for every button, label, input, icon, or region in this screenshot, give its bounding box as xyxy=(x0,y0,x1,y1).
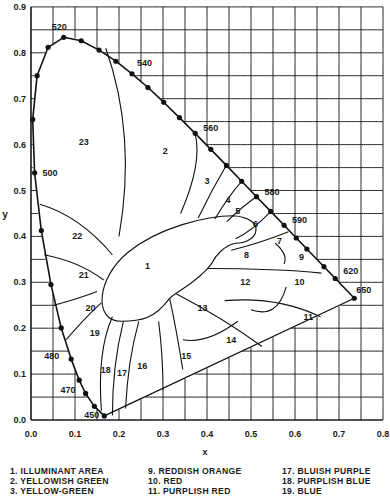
region-label: 5 xyxy=(235,206,240,216)
x-tick-label: 0.7 xyxy=(333,429,346,439)
y-tick-label: 0.7 xyxy=(13,94,26,104)
y-tick-label: 0.1 xyxy=(13,369,26,379)
x-tick-label: 0.8 xyxy=(377,429,390,439)
wavelength-label: 560 xyxy=(203,123,218,133)
region-boundary xyxy=(275,243,285,264)
wavelength-point xyxy=(79,38,84,43)
region-boundary xyxy=(181,134,197,214)
wavelength-point xyxy=(77,378,82,383)
region-label: 20 xyxy=(85,303,95,313)
region-boundary xyxy=(198,165,226,218)
region-label: 4 xyxy=(226,195,231,205)
wavelength-point xyxy=(30,117,35,122)
y-tick-label: 0.2 xyxy=(13,323,26,333)
wavelength-point xyxy=(145,85,150,90)
region-label: 12 xyxy=(240,277,250,287)
wavelength-point xyxy=(254,194,259,199)
x-tick-label: 0.0 xyxy=(25,429,38,439)
wavelength-point xyxy=(281,223,286,228)
wavelength-point xyxy=(39,228,44,233)
wavelength-point xyxy=(321,264,326,269)
wavelength-point xyxy=(32,170,37,175)
y-tick-label: 0.0 xyxy=(13,415,26,425)
wavelength-point xyxy=(48,282,53,287)
x-tick-label: 0.5 xyxy=(245,429,258,439)
wavelength-label: 620 xyxy=(343,266,358,276)
wavelength-point xyxy=(102,413,107,418)
region-boundary xyxy=(106,48,126,236)
x-tick-label: 0.4 xyxy=(201,429,214,439)
region-label: 19 xyxy=(90,328,100,338)
wavelength-point xyxy=(224,163,229,168)
wavelength-point xyxy=(333,276,338,281)
legend: 1. ILLUMINANT AREA 2. YELLOWISH GREEN 3.… xyxy=(10,466,390,497)
y-tick-label: 0.3 xyxy=(13,277,26,287)
wavelength-point xyxy=(294,235,299,240)
wavelength-point xyxy=(268,209,273,214)
x-axis-label: x xyxy=(202,447,207,457)
wavelength-label: 470 xyxy=(61,385,76,395)
chromaticity-diagram: 0.00.10.20.30.40.50.60.70.80.00.10.20.30… xyxy=(0,0,390,466)
region-label: 6 xyxy=(253,219,258,229)
region-label: 17 xyxy=(117,368,127,378)
wavelength-point xyxy=(83,391,88,396)
wavelength-label: 480 xyxy=(44,351,59,361)
y-tick-label: 0.5 xyxy=(13,186,26,196)
y-axis-label: y xyxy=(2,209,8,220)
y-tick-label: 0.9 xyxy=(13,2,26,12)
x-tick-label: 0.6 xyxy=(289,429,302,439)
y-tick-label: 0.8 xyxy=(13,48,26,58)
legend-item: 10. RED xyxy=(148,476,241,486)
region-boundary xyxy=(44,255,103,280)
region-label: 18 xyxy=(101,365,111,375)
region-label: 2 xyxy=(163,146,168,156)
wavelength-point xyxy=(61,35,66,40)
region-boundary xyxy=(251,287,286,312)
legend-item: 11. PURPLISH RED xyxy=(148,486,241,496)
wavelength-label: 500 xyxy=(43,168,58,178)
wavelength-label: 520 xyxy=(52,22,67,32)
region-label: 9 xyxy=(299,252,304,262)
y-tick-label: 0.6 xyxy=(13,140,26,150)
legend-column-2: 9. REDDISH ORANGE 10. RED 11. PURPLISH R… xyxy=(148,466,241,496)
wavelength-point xyxy=(193,131,198,136)
legend-item: 19. BLUE xyxy=(282,486,371,496)
wavelength-point xyxy=(59,325,64,330)
wavelength-label: 450 xyxy=(84,410,99,420)
region-label: 15 xyxy=(181,351,191,361)
wavelength-point xyxy=(177,115,182,120)
region-boundary xyxy=(159,321,163,390)
legend-item: 17. BLUISH PURPLE xyxy=(282,466,371,476)
region-boundary xyxy=(176,294,262,347)
legend-item: 18. PURPLISH BLUE xyxy=(282,476,371,486)
region-label: 3 xyxy=(204,176,209,186)
wavelength-label: 590 xyxy=(292,215,307,225)
region-label: 13 xyxy=(198,303,208,313)
grid xyxy=(31,7,383,420)
wavelength-point xyxy=(69,356,74,361)
wavelength-point xyxy=(113,59,118,64)
region-label: 22 xyxy=(72,231,82,241)
wavelength-point xyxy=(304,246,309,251)
legend-column-1: 1. ILLUMINANT AREA 2. YELLOWISH GREEN 3.… xyxy=(10,466,109,496)
region-label: 7 xyxy=(277,236,282,246)
legend-item: 1. ILLUMINANT AREA xyxy=(10,466,109,476)
wavelength-point xyxy=(35,73,40,78)
region-label: 21 xyxy=(79,270,89,280)
x-tick-label: 0.3 xyxy=(157,429,170,439)
wavelength-point xyxy=(46,45,51,50)
wavelength-point xyxy=(129,71,134,76)
legend-item: 3. YELLOW-GREEN xyxy=(10,486,109,496)
y-tick-label: 0.4 xyxy=(13,231,26,241)
wavelength-point xyxy=(239,179,244,184)
wavelength-point xyxy=(96,47,101,52)
wavelength-point xyxy=(92,404,97,409)
legend-column-3: 17. BLUISH PURPLE 18. PURPLISH BLUE 19. … xyxy=(282,466,371,496)
region-boundary xyxy=(40,204,113,254)
region-label: 23 xyxy=(79,137,89,147)
region-boundary xyxy=(207,269,321,274)
wavelength-point xyxy=(161,100,166,105)
legend-item: 2. YELLOWISH GREEN xyxy=(10,476,109,486)
wavelength-label: 580 xyxy=(265,187,280,197)
wavelength-label: 650 xyxy=(356,285,371,295)
